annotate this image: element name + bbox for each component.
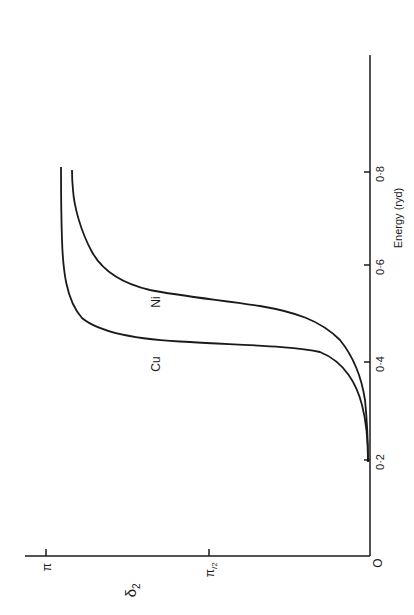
- energy-tick-label-0.8: 0·8: [374, 166, 386, 182]
- energy-tick-label-0.2: 0·2: [374, 454, 386, 470]
- ni-curve: [72, 170, 368, 462]
- ni-label: Ni: [149, 296, 163, 307]
- svg-text:/2: /2: [210, 562, 219, 569]
- origin-label: O: [371, 558, 385, 567]
- delta-axis-title: δ 2: [122, 583, 142, 597]
- delta-tick-label-half-pi: π /2: [203, 562, 219, 578]
- energy-axis-title: Energy (ryd): [392, 188, 404, 249]
- cu-curve: [61, 167, 368, 462]
- svg-text:π: π: [203, 569, 217, 577]
- energy-tick-label-0.4: 0·4: [374, 356, 386, 372]
- energy-tick-label-0.6: 0·6: [374, 259, 386, 275]
- svg-text:δ: δ: [122, 589, 139, 597]
- svg-text:2: 2: [131, 583, 142, 589]
- delta2-vs-energy-chart: O 0·2 0·4 0·6 0·8 Energy (ryd) π π /2 δ …: [0, 0, 414, 615]
- cu-label: Cu: [149, 356, 163, 371]
- delta-tick-label-pi: π: [40, 563, 54, 571]
- delta-ticks: [46, 549, 209, 556]
